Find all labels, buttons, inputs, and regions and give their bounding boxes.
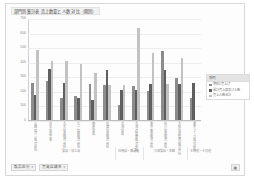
- gridline: [28, 48, 201, 49]
- bar-group[interactable]: [175, 58, 183, 120]
- pivot-field-button-label: 売買店舗名: [42, 164, 62, 171]
- chart-corner-control[interactable]: ▦: [231, 164, 240, 171]
- bar-group[interactable]: [89, 73, 97, 120]
- bar[interactable]: [80, 64, 83, 120]
- bar-group[interactable]: [147, 53, 155, 120]
- legend-item-label: 累計売上高及び人数: [213, 89, 240, 93]
- x-axis-category-label: 明星食品: [91, 122, 94, 135]
- x-axis-category-label: 山崎製パン株式会社: [34, 122, 37, 152]
- bar[interactable]: [152, 53, 155, 120]
- x-axis-group-label: その他・その他: [187, 149, 216, 153]
- y-axis-tick-label: 200: [20, 90, 26, 93]
- legend-swatch-series-3: [209, 95, 212, 98]
- pivot-field-button-label: 製品区分: [14, 164, 30, 171]
- y-axis-tick-label: 100: [20, 104, 26, 107]
- bar[interactable]: [123, 85, 126, 120]
- x-axis-category-label: 日清食品株式会社: [106, 122, 109, 148]
- x-axis-group-label: 冷凍食品・生鮮: [143, 149, 186, 153]
- pivot-chart-frame[interactable]: 部門別集計表 売上数量と人数 対比（期別） 010020030040050060…: [5, 3, 245, 176]
- bar-group[interactable]: [132, 28, 140, 120]
- bar[interactable]: [192, 83, 195, 120]
- gridline: [28, 19, 201, 20]
- x-axis-category-label: 北海食品: [120, 122, 123, 135]
- legend-item-label: 売上人数合計: [213, 94, 231, 98]
- y-axis-tick-label: 0: [24, 119, 26, 122]
- bar-group[interactable]: [31, 50, 39, 120]
- bar-group[interactable]: [161, 51, 169, 120]
- y-axis-tick-label: 300: [20, 75, 26, 78]
- x-axis-category-label: 石川食品株式会社: [163, 122, 166, 148]
- x-axis-group-label: 食品・加工品: [28, 149, 115, 153]
- legend-swatch-series-2: [209, 89, 212, 92]
- y-axis-tick-label: 400: [20, 61, 26, 64]
- y-axis-tick-label: 700: [20, 17, 26, 20]
- x-axis-category-label: 日本食品工業: [48, 122, 51, 142]
- y-axis-tick-label: 500: [20, 46, 26, 49]
- x-axis-category-label: 東京フーズ株式会社: [192, 122, 195, 152]
- bar[interactable]: [166, 84, 169, 120]
- gridline: [28, 34, 201, 35]
- bar-group[interactable]: [118, 85, 126, 120]
- plot-area[interactable]: 0100200300400500600700: [28, 19, 201, 121]
- pivot-field-button[interactable]: 製品区分▾: [11, 164, 36, 171]
- x-axis-group-labels: 食品・加工品日用品・雑貨類冷凍食品・生鮮その他・その他: [28, 149, 201, 163]
- legend-items[interactable]: 期別1売上げ累計売上高及び人数売上人数合計: [207, 82, 249, 99]
- x-axis-category-label: 丸一製粉株式会社: [77, 122, 80, 148]
- legend-item[interactable]: 売上人数合計: [207, 93, 249, 99]
- chevron-down-icon[interactable]: ▾: [32, 164, 33, 171]
- legend-item-label: 期別1売上げ: [213, 83, 230, 87]
- bar-group[interactable]: [190, 83, 198, 120]
- x-axis-category-label: 東京青果株式会社: [149, 122, 152, 148]
- bar[interactable]: [137, 28, 140, 120]
- y-axis-tick-label: 600: [20, 32, 26, 35]
- legend[interactable]: 系列 期別1売上げ累計売上高及び人数売上人数合計: [206, 74, 250, 100]
- bar[interactable]: [65, 61, 68, 120]
- bar-group[interactable]: [46, 61, 54, 120]
- bar-group[interactable]: [103, 70, 111, 120]
- bar[interactable]: [108, 85, 111, 120]
- pivot-field-button-bar[interactable]: 製品区分▾売買店舗名▾: [11, 164, 68, 171]
- x-axis-group-label: 日用品・雑貨類: [115, 149, 144, 153]
- legend-swatch-series-1: [209, 84, 212, 87]
- bar[interactable]: [36, 50, 39, 120]
- chevron-down-icon[interactable]: ▾: [63, 164, 64, 171]
- chart-title: 部門別集計表 売上数量と人数 対比（期別）: [11, 7, 100, 15]
- bar-group[interactable]: [60, 61, 68, 120]
- x-axis-category-labels: 山崎製パン株式会社日本食品工業丸大食品株式会社丸一製粉株式会社明星食品日清食品株…: [28, 122, 201, 148]
- bar[interactable]: [51, 61, 54, 120]
- pivot-field-button[interactable]: 売買店舗名▾: [39, 164, 68, 171]
- bar[interactable]: [181, 58, 184, 120]
- x-axis-category-label: 北海道製菓株式会社: [135, 122, 138, 152]
- legend-title: 系列: [207, 75, 249, 82]
- x-axis-category-label: 丸大食品株式会社: [62, 122, 65, 148]
- bar[interactable]: [94, 73, 97, 120]
- bar-group[interactable]: [74, 64, 82, 120]
